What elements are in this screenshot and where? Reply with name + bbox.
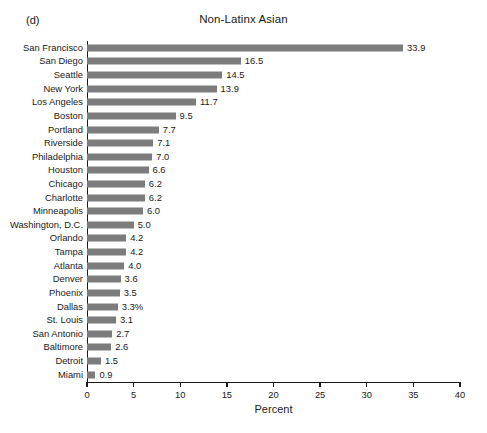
bar [87, 208, 143, 215]
bar [87, 358, 101, 365]
bar-value-label: 2.7 [116, 329, 129, 338]
bar-row: New York13.9 [87, 82, 460, 96]
bar-category-label: Denver [53, 275, 83, 284]
x-axis-tick-label: 35 [408, 389, 418, 400]
bar-row: Washington, D.C.5.0 [87, 218, 460, 232]
bar [87, 194, 145, 201]
x-axis-tick [319, 382, 320, 388]
bar [87, 99, 196, 106]
bar-category-label: Detroit [55, 356, 83, 365]
x-axis-tick-label: 10 [175, 389, 185, 400]
bar-row: San Antonio2.7 [87, 327, 460, 341]
bar-value-label: 7.7 [163, 125, 176, 134]
bar-row: Boston9.5 [87, 109, 460, 123]
bar [87, 303, 118, 310]
bar-category-label: St. Louis [47, 316, 83, 325]
chart-title: Non-Latinx Asian [0, 13, 487, 25]
bar-row: Houston6.6 [87, 163, 460, 177]
x-axis-tick [459, 382, 460, 388]
bar [87, 344, 111, 351]
bar [87, 58, 241, 65]
bar [87, 44, 403, 51]
bar-category-label: Baltimore [43, 343, 83, 352]
bar [87, 153, 152, 160]
bar-value-label: 4.2 [130, 234, 143, 243]
x-axis-tick-label: 25 [315, 389, 325, 400]
bar-row: Detroit1.5 [87, 354, 460, 368]
bar-row: San Francisco33.9 [87, 41, 460, 55]
bar-row: Seattle14.5 [87, 68, 460, 82]
bar-category-label: Phoenix [49, 288, 83, 297]
bar-value-label: 0.9 [99, 370, 112, 379]
bar [87, 262, 124, 269]
bar [87, 221, 134, 228]
bar-row: Orlando4.2 [87, 231, 460, 245]
bar-category-label: San Diego [39, 57, 83, 66]
bar-value-label: 16.5 [245, 57, 263, 66]
bar-row: San Diego16.5 [87, 54, 460, 68]
bar-category-label: Dallas [57, 302, 83, 311]
bar-value-label: 6.2 [149, 193, 162, 202]
bar-row: Phoenix3.5 [87, 286, 460, 300]
bar [87, 371, 95, 378]
bar-value-label: 3.1 [120, 316, 133, 325]
bar-value-label: 11.7 [200, 98, 218, 107]
bar-row: Portland7.7 [87, 122, 460, 136]
x-axis-title: Percent [87, 403, 460, 415]
bar-value-label: 3.6 [125, 275, 138, 284]
bar-category-label: Miami [58, 370, 83, 379]
bar-value-label: 4.0 [128, 261, 141, 270]
bar-value-label: 9.5 [180, 111, 193, 120]
x-axis-tick [133, 382, 134, 388]
bar-value-label: 1.5 [105, 356, 118, 365]
bar [87, 276, 121, 283]
bar-category-label: New York [43, 84, 83, 93]
bar-category-label: Tampa [55, 247, 83, 256]
bar [87, 72, 222, 79]
x-axis-tick-label: 0 [84, 389, 89, 400]
bar-value-label: 7.1 [157, 138, 170, 147]
bar-category-label: Seattle [54, 70, 83, 79]
x-axis-tick [180, 382, 181, 388]
bar [87, 167, 149, 174]
bar-row: Tampa4.2 [87, 245, 460, 259]
bar-value-label: 33.9 [407, 43, 425, 52]
bar-row: Baltimore2.6 [87, 340, 460, 354]
bar-value-label: 2.6 [115, 343, 128, 352]
bar-category-label: Los Angeles [32, 98, 83, 107]
bar [87, 140, 153, 147]
bar-category-label: Boston [54, 111, 83, 120]
bar-category-label: Washington, D.C. [10, 220, 83, 229]
bar-category-label: Minneapolis [33, 207, 83, 216]
bar-row: Chicago6.2 [87, 177, 460, 191]
bar [87, 181, 145, 188]
bar-row: Los Angeles11.7 [87, 95, 460, 109]
bar-row: Charlotte6.2 [87, 191, 460, 205]
bar [87, 289, 120, 296]
bar-category-label: San Francisco [23, 43, 83, 52]
x-axis-tick [366, 382, 367, 388]
bar-value-label: 3.3% [122, 302, 143, 311]
bar [87, 330, 112, 337]
bar [87, 249, 126, 256]
bar [87, 85, 217, 92]
bar-row: Denver3.6 [87, 272, 460, 286]
bar [87, 317, 116, 324]
bar-value-label: 7.0 [156, 152, 169, 161]
bar-value-label: 4.2 [130, 247, 143, 256]
bar-value-label: 5.0 [138, 220, 151, 229]
x-axis-tick-label: 40 [455, 389, 465, 400]
bar-value-label: 6.6 [153, 166, 166, 175]
bar-value-label: 14.5 [226, 70, 244, 79]
bar [87, 112, 176, 119]
bar-row: Riverside7.1 [87, 136, 460, 150]
bar [87, 126, 159, 133]
bar-category-label: Houston [48, 166, 83, 175]
bar-value-label: 13.9 [221, 84, 239, 93]
plot-area: San Francisco33.9San Diego16.5Seattle14.… [87, 41, 460, 382]
x-axis-tick-label: 30 [362, 389, 372, 400]
x-axis-tick [273, 382, 274, 388]
bar-value-label: 3.5 [124, 288, 137, 297]
bar-value-label: 6.2 [149, 179, 162, 188]
bar-row: Dallas3.3% [87, 299, 460, 313]
